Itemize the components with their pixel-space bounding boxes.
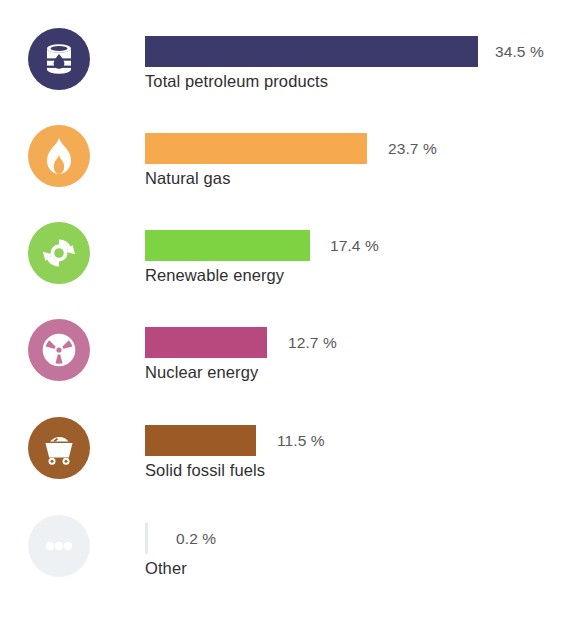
bar-category-label: Other (145, 559, 187, 578)
radiation-icon (28, 319, 90, 381)
bar-category-label: Solid fossil fuels (145, 461, 265, 480)
bar-fill (145, 133, 367, 164)
bar-category-label: Renewable energy (145, 266, 284, 285)
bar-value-label: 34.5 % (495, 43, 544, 61)
bar-value-label: 12.7 % (288, 334, 337, 352)
bar-value-label: 17.4 % (330, 237, 379, 255)
energy-mix-bar-chart: 34.5 % Total petroleum products 23.7 % N… (0, 0, 581, 631)
chart-row: 34.5 % Total petroleum products (0, 25, 581, 122)
bar-category-label: Nuclear energy (145, 363, 258, 382)
coal-cart-icon (28, 417, 90, 479)
bar-track (145, 327, 267, 358)
flame-icon (28, 125, 90, 187)
bar-category-label: Total petroleum products (145, 72, 328, 91)
bar-track (145, 523, 148, 554)
chart-row: 12.7 % Nuclear energy (0, 316, 581, 413)
chart-row: 17.4 % Renewable energy (0, 219, 581, 316)
bar-value-label: 23.7 % (388, 140, 437, 158)
bar-track (145, 425, 256, 456)
bar-fill (145, 425, 256, 456)
bar-track (145, 36, 478, 67)
bar-value-label: 11.5 % (277, 432, 325, 450)
chart-row: 23.7 % Natural gas (0, 122, 581, 219)
oil-barrel-icon (28, 28, 90, 90)
bar-fill (145, 523, 148, 554)
bar-category-label: Natural gas (145, 169, 230, 188)
bar-fill (145, 230, 310, 261)
bar-fill (145, 327, 267, 358)
recycle-arrows-icon (28, 222, 90, 284)
bar-fill (145, 36, 478, 67)
ellipsis-icon (28, 515, 90, 577)
bar-track (145, 230, 310, 261)
bar-value-label: 0.2 % (176, 530, 216, 548)
chart-row: 11.5 % Solid fossil fuels (0, 414, 581, 511)
chart-row: 0.2 % Other (0, 512, 581, 609)
bar-track (145, 133, 367, 164)
